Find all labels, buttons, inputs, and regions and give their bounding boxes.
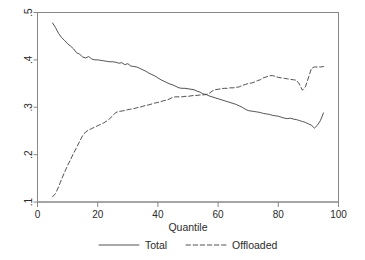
quantile-line-chart: .1.2.3.4.5 020406080100 Quantile TotalOf…: [0, 0, 365, 260]
x-axis-tick-label: 60: [213, 209, 225, 220]
x-axis-tick-label: 80: [273, 209, 285, 220]
y-axis-tick-label: .4: [23, 55, 34, 64]
x-axis-title: Quantile: [168, 221, 207, 233]
y-axis-tick-label: .3: [23, 103, 34, 112]
legend-label-total: Total: [145, 239, 167, 251]
x-axis-tick-label: 100: [330, 209, 347, 220]
y-axis-tick-label: .5: [23, 8, 34, 17]
chart-figure: .1.2.3.4.5 020406080100 Quantile TotalOf…: [0, 0, 365, 260]
y-axis-tick-label: .1: [23, 197, 34, 206]
y-axis-tick-label: .2: [23, 150, 34, 159]
x-axis-tick-label: 20: [92, 209, 104, 220]
x-axis-tick-label: 0: [35, 209, 41, 220]
legend-label-offloaded: Offloaded: [232, 239, 278, 251]
x-axis-tick-label: 40: [152, 209, 164, 220]
